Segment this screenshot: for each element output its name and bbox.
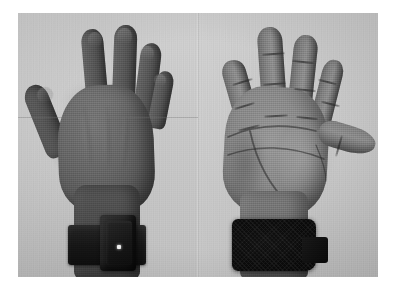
hand-figure	[18, 13, 378, 277]
panel-palmar-view	[198, 13, 378, 277]
photo-fold-line	[18, 117, 198, 118]
panel-seam	[197, 13, 200, 277]
status-led-icon	[117, 245, 121, 249]
thumb-base-line-path	[316, 145, 326, 181]
palmar-strap-tail	[302, 237, 328, 263]
heart-line-path	[228, 126, 316, 137]
panel-dorsal-view	[18, 13, 198, 277]
wrist-device-face	[106, 221, 132, 265]
dorsal-nail-middle	[117, 28, 133, 45]
head-line-path	[228, 148, 324, 159]
dorsal-nail-index	[87, 31, 102, 47]
